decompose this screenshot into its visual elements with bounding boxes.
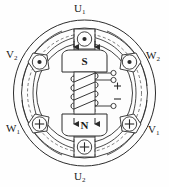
label-sub: 2 [156, 55, 160, 63]
label-base: V [148, 123, 156, 135]
negative-terminal-node [111, 103, 116, 108]
rotor-north-pole: N [62, 114, 107, 136]
current-out-dot-icon [37, 60, 41, 64]
stator-terminal-label-v1: V1 [148, 123, 159, 135]
stator-terminal-label-w2: W2 [146, 49, 160, 61]
label-sub: 2 [14, 54, 18, 62]
positive-terminal-node-2 [111, 77, 116, 82]
label-sub: 1 [82, 8, 86, 16]
label-base: U [74, 170, 82, 182]
label-sub: 2 [82, 176, 86, 184]
stator-terminal-label-u2: U2 [74, 170, 85, 182]
label-sub: 1 [156, 129, 160, 137]
stator-terminal-label-v2: V2 [6, 48, 17, 60]
machine-cross-section-figure: S N [0, 0, 169, 187]
rotor-south-pole: S [62, 50, 107, 72]
label-base: V [6, 48, 14, 60]
positive-terminal-node [111, 70, 116, 75]
south-pole-label: S [81, 55, 87, 67]
stator-terminal-label-w1: W1 [6, 122, 20, 134]
north-pole-label: N [81, 119, 89, 131]
current-out-dot-icon [127, 60, 131, 64]
label-sub: 1 [16, 128, 20, 136]
slot-u1-top[interactable] [74, 29, 95, 49]
label-base: W [146, 49, 156, 61]
label-base: U [74, 2, 82, 14]
label-base: W [6, 122, 16, 134]
stator-terminal-label-u1: U1 [74, 2, 85, 14]
machine-diagram-svg: S N [0, 0, 169, 187]
current-out-dot-icon [82, 37, 86, 41]
slot-u2-bottom[interactable] [74, 137, 95, 157]
